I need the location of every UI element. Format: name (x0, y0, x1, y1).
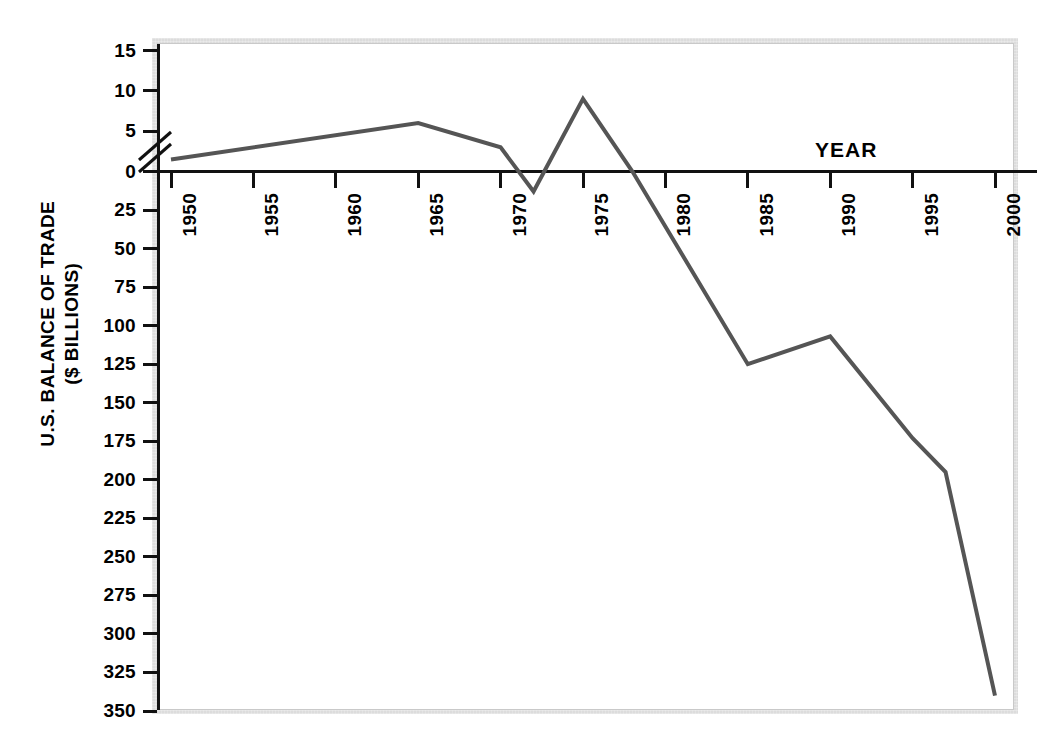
y-axis-tick-label-wrap: 0 (0, 162, 136, 182)
y-axis-tick-label-wrap: 175 (0, 431, 136, 451)
x-axis-tick-label: 1980 (674, 193, 693, 236)
y-axis-tick-label-wrap: 350 (0, 701, 136, 721)
y-axis-tick (143, 130, 157, 133)
x-axis-tick-label: 1975 (592, 193, 611, 236)
x-axis-tick (499, 173, 502, 188)
y-axis-tick (143, 49, 157, 52)
y-axis-tick (143, 594, 157, 597)
y-axis-tick (143, 440, 157, 443)
y-axis-tick-label-wrap: 125 (0, 354, 136, 374)
y-axis-tick-label-wrap: 275 (0, 585, 136, 605)
y-axis-tick-label: 25 (114, 200, 136, 219)
y-axis-tick-label: 350 (103, 701, 136, 720)
y-axis-tick (143, 363, 157, 366)
y-axis-tick (143, 401, 157, 404)
x-axis-tick-label: 1985 (757, 193, 776, 236)
y-axis-tick-label: 175 (103, 431, 136, 450)
y-axis-tick-label: 225 (103, 508, 136, 527)
x-axis-tick-label: 1950 (180, 193, 199, 236)
x-axis-title: YEAR (815, 138, 877, 162)
x-axis-tick-label: 1995 (922, 193, 941, 236)
y-axis-tick-label: 100 (103, 316, 136, 335)
x-axis-tick (252, 173, 255, 188)
y-axis-tick-label-wrap: 250 (0, 547, 136, 567)
y-axis-tick-label-wrap: 300 (0, 624, 136, 644)
x-axis-tick-label: 1965 (427, 193, 446, 236)
x-axis-tick (911, 173, 914, 188)
x-axis-zero-line (157, 170, 1037, 173)
y-axis-tick (143, 247, 157, 250)
y-axis-tick-label: 75 (114, 277, 136, 296)
chart-figure: U.S. BALANCE OF TRADE ($ BILLIONS) YEAR … (0, 0, 1051, 741)
y-axis-tick (143, 671, 157, 674)
y-axis-tick (143, 478, 157, 481)
y-axis-tick-label-wrap: 10 (0, 81, 136, 101)
x-axis-tick-label: 1990 (839, 193, 858, 236)
y-axis-tick-label: 275 (103, 585, 136, 604)
y-axis-tick-label: 200 (103, 470, 136, 489)
y-axis-tick-label-wrap: 75 (0, 277, 136, 297)
x-axis-tick (746, 173, 749, 188)
y-axis-tick-label: 325 (103, 662, 136, 681)
y-axis-tick-label: 10 (114, 81, 136, 100)
y-axis-tick (143, 517, 157, 520)
y-axis-tick-label: 150 (103, 393, 136, 412)
y-axis-tick-label-wrap: 25 (0, 200, 136, 220)
y-axis-tick-label: 250 (103, 547, 136, 566)
x-axis-tick-label: 1955 (262, 193, 281, 236)
y-axis-tick-label-wrap: 5 (0, 121, 136, 141)
y-axis-tick (143, 209, 157, 212)
y-axis-tick-label-wrap: 100 (0, 316, 136, 336)
x-axis-tick (417, 173, 420, 188)
y-axis-tick (143, 89, 157, 92)
y-axis-tick-label-wrap: 150 (0, 393, 136, 413)
y-axis-tick (143, 632, 157, 635)
y-axis-tick (143, 286, 157, 289)
x-axis-tick-label: 1970 (510, 193, 529, 236)
y-axis-tick (143, 710, 157, 713)
x-axis-tick (994, 173, 997, 188)
y-axis-tick-label-wrap: 225 (0, 508, 136, 528)
x-axis-tick (582, 173, 585, 188)
y-axis-tick-label: 50 (114, 239, 136, 258)
x-axis-tick (170, 173, 173, 188)
y-axis-tick-label: 300 (103, 624, 136, 643)
y-axis-tick-label: 125 (103, 354, 136, 373)
y-axis-tick-label-wrap: 325 (0, 662, 136, 682)
y-axis-tick (143, 324, 157, 327)
x-axis-tick (334, 173, 337, 188)
y-axis-tick-label: 5 (125, 121, 136, 140)
y-axis-tick-label-wrap: 15 (0, 41, 136, 61)
y-axis-tick (143, 555, 157, 558)
plot-area (158, 44, 1013, 709)
y-axis-tick-label-wrap: 50 (0, 239, 136, 259)
axis-break-marker (137, 126, 179, 176)
x-axis-tick-label: 1960 (345, 193, 364, 236)
y-axis-tick (143, 170, 157, 173)
y-axis-tick-label: 0 (125, 162, 136, 181)
y-axis-tick-label: 15 (114, 41, 136, 60)
y-axis-tick-label-wrap: 200 (0, 470, 136, 490)
x-axis-tick (664, 173, 667, 188)
x-axis-tick (829, 173, 832, 188)
x-axis-tick-label: 2000 (1004, 193, 1023, 236)
